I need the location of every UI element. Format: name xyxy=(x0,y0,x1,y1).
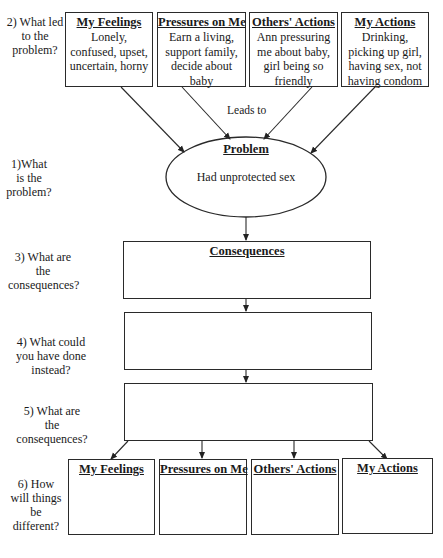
top-box-pressures-on-me: Pressures on Me Earn a living, support f… xyxy=(157,12,246,87)
top-box-my-actions: My Actions Drinking, picking up girl, ha… xyxy=(341,12,429,87)
question-3-label: 3) What are the consequences? xyxy=(8,250,78,292)
box-title: My Feelings xyxy=(66,15,152,30)
box-title: My Actions xyxy=(342,15,428,30)
problem-body: Had unprotected sex xyxy=(166,170,326,185)
leads-to-label: Leads to xyxy=(227,104,266,116)
question-6-label: 6) How will things be different? xyxy=(8,477,64,533)
problem-title: Problem xyxy=(166,142,326,157)
consequences-box[interactable]: Consequences xyxy=(123,241,371,299)
question-2-label: 2) What led to the problem? xyxy=(6,15,64,57)
bottom-box-my-actions[interactable]: My Actions xyxy=(342,458,433,534)
box-title: Others' Actions xyxy=(252,462,338,477)
bottom-box-my-feelings[interactable]: My Feelings xyxy=(68,459,155,535)
box-body: Drinking, picking up girl, having sex, n… xyxy=(342,30,428,88)
box-title: Others' Actions xyxy=(250,15,337,30)
box-body: Earn a living, support family, decide ab… xyxy=(158,30,245,88)
alternative-box[interactable] xyxy=(124,312,372,370)
box-title: Pressures on Me xyxy=(160,462,246,477)
consequences-title: Consequences xyxy=(124,244,370,259)
question-1-label: 1)What is the problem? xyxy=(6,157,52,199)
bottom-box-others-actions[interactable]: Others' Actions xyxy=(251,459,339,535)
box-body: Ann pressuring me about baby, girl being… xyxy=(250,30,337,88)
top-box-my-feelings: My Feelings Lonely, confused, upset, unc… xyxy=(65,12,153,87)
box-body: Lonely, confused, upset, uncertain, horn… xyxy=(66,30,152,74)
problem-node: Problem Had unprotected sex xyxy=(166,142,326,185)
box-title: My Actions xyxy=(343,461,432,476)
box-title: My Feelings xyxy=(69,462,154,477)
alt-consequences-box[interactable] xyxy=(124,383,373,441)
top-box-others-actions: Others' Actions Ann pressuring me about … xyxy=(249,12,338,87)
question-4-label: 4) What could you have done instead? xyxy=(8,335,94,377)
box-title: Pressures on Me xyxy=(158,15,245,30)
question-5-label: 5) What are the consequences? xyxy=(16,404,88,446)
bottom-box-pressures-on-me[interactable]: Pressures on Me xyxy=(159,459,247,535)
